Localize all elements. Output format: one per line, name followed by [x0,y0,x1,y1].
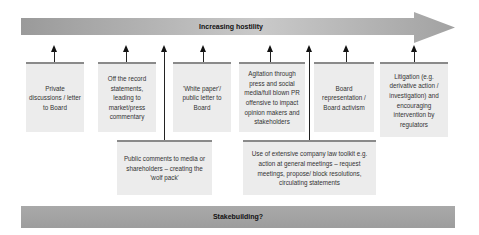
connector-line [414,51,415,62]
connector-line [346,51,347,62]
connector-line [54,51,55,62]
stage-box-white-paper: 'White paper'/ public letter to Board [173,62,231,132]
stakebuilding-bar: Stakebuilding? [21,206,455,228]
stage-text: Litigation (e.g. derivative action / inv… [383,72,445,130]
connector-line [203,51,204,62]
stage-text: Private discussions / letter to Board [29,84,81,113]
stage-text: 'White paper'/ public letter to Board [176,84,228,113]
stage-box-company-law-toolkit: Use of extensive company law toolkit e.g… [243,140,376,195]
connector-line [270,51,271,62]
connector-line [164,51,165,140]
stage-text: Use of extensive company law toolkit e.g… [249,149,370,187]
stakebuilding-label: Stakebuilding? [21,206,455,228]
stage-box-public-comments: Public comments to media or shareholders… [117,140,212,195]
stage-box-board-representation: Board representation / Board activism [314,62,374,132]
stage-text: Agitation through press and social media… [242,69,302,127]
stage-text: Off the record statements, leading to ma… [101,74,153,122]
stage-box-off-record: Off the record statements, leading to ma… [98,62,156,132]
stage-text: Board representation / Board activism [317,84,371,113]
connector-line [126,51,127,62]
stage-text: Public comments to media or shareholders… [120,154,209,183]
connector-line [309,51,310,140]
stage-box-agitation: Agitation through press and social media… [239,62,305,132]
stage-box-litigation: Litigation (e.g. derivative action / inv… [380,62,448,137]
stage-box-private-discussions: Private discussions / letter to Board [26,62,84,132]
increasing-hostility-label: Increasing hostility [21,18,441,35]
